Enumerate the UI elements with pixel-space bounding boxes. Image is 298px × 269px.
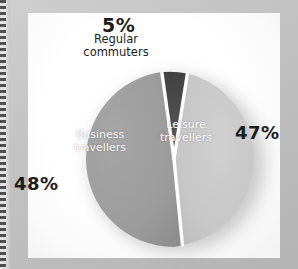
pie-slices-container	[86, 71, 262, 247]
pie-svg	[86, 71, 262, 247]
slice-name-regular-commuters-line2: commuters	[61, 46, 171, 59]
slice-name-leisure-travellers-line2: travellers	[148, 131, 224, 144]
chart-page: 5% Regular commuters 47% 48% Business tr…	[0, 0, 298, 269]
percent-label-business-travellers: 48%	[14, 173, 59, 194]
slice-name-business-travellers-line2: travellers	[62, 141, 138, 154]
slice-name-business-travellers-line1: Business	[62, 128, 138, 141]
slice-name-leisure-travellers: Leisure travellers	[148, 118, 224, 144]
pie-chart	[86, 71, 264, 249]
binding-inner-strip	[6, 0, 10, 269]
slice-name-business-travellers: Business travellers	[62, 128, 138, 154]
slice-name-regular-commuters: Regular commuters	[61, 33, 171, 59]
percent-label-leisure-travellers: 47%	[235, 122, 280, 143]
slice-name-leisure-travellers-line1: Leisure	[148, 118, 224, 131]
